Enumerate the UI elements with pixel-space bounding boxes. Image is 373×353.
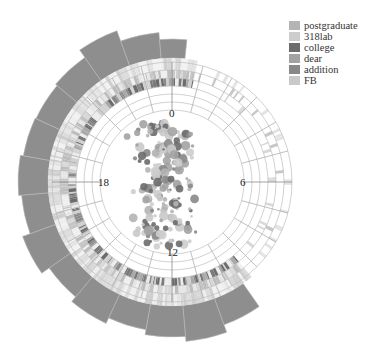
- tick-label-0: 0: [169, 107, 175, 119]
- band-tick: [167, 294, 170, 306]
- grid-spoke: [208, 78, 232, 120]
- scatter-point: [144, 159, 150, 165]
- band-tick: [275, 170, 283, 174]
- outer-bar-segment: [160, 39, 187, 59]
- scatter-point: [139, 120, 147, 128]
- legend-swatch: [289, 54, 300, 63]
- scatter-point: [153, 190, 161, 198]
- scatter-point: [185, 177, 188, 180]
- band-tick: [68, 178, 76, 182]
- band-tick: [173, 78, 175, 86]
- scatter-point: [144, 239, 151, 246]
- legend-label: postgraduate: [304, 20, 358, 31]
- legend-swatch: [289, 32, 300, 41]
- scatter-point: [188, 183, 193, 188]
- legend-item-dear: dear: [289, 53, 358, 64]
- scatter-point: [154, 243, 160, 249]
- scatter-point: [168, 227, 173, 232]
- legend-swatch: [289, 76, 300, 85]
- scatter-point: [152, 149, 160, 157]
- scatter-point: [163, 157, 171, 165]
- band-tick: [265, 202, 273, 206]
- scatter-point: [150, 202, 154, 206]
- scatter-point: [150, 209, 154, 213]
- legend-item-addition: addition: [289, 64, 358, 75]
- scatter-point: [184, 225, 193, 234]
- band-tick: [257, 225, 265, 230]
- scatter-point: [149, 189, 154, 194]
- legend-item-318lab: 318lab: [289, 31, 358, 42]
- scatter-point: [173, 201, 178, 206]
- band-tick: [60, 171, 68, 176]
- scatter-point: [140, 183, 147, 190]
- scatter-point: [170, 210, 174, 214]
- scatter-point: [173, 220, 178, 225]
- band-tick: [168, 278, 172, 286]
- scatter-point: [129, 213, 138, 222]
- legend-label: college: [304, 42, 334, 53]
- band-tick: [263, 148, 272, 153]
- scatter-point: [168, 239, 172, 243]
- scatter-point: [163, 197, 168, 202]
- scatter-point: [159, 242, 162, 245]
- scatter-point: [188, 207, 191, 210]
- band-tick: [270, 143, 278, 148]
- scatter-point: [185, 221, 190, 226]
- legend-swatch: [289, 21, 300, 30]
- band-tick: [233, 91, 239, 98]
- band-tick: [164, 286, 168, 294]
- scatter-point: [134, 130, 140, 136]
- band-tick: [168, 78, 172, 86]
- scatter-point: [162, 202, 165, 205]
- legend-item-college: college: [289, 42, 358, 53]
- band-tick: [60, 184, 68, 187]
- band-tick: [224, 95, 230, 103]
- outer-bar-segment: [18, 155, 50, 195]
- scatter-point: [146, 134, 150, 138]
- scatter-point: [149, 122, 153, 126]
- tick-label-12: 12: [167, 246, 178, 258]
- scatter-point: [178, 141, 181, 144]
- band-tick: [175, 78, 179, 86]
- scatter-point: [157, 208, 160, 211]
- band-tick: [284, 182, 292, 185]
- band-tick: [48, 178, 60, 181]
- scatter-point: [159, 219, 163, 223]
- scatter-point: [194, 230, 197, 233]
- scatter-point: [146, 214, 154, 222]
- band-tick: [238, 85, 244, 92]
- scatter-point: [156, 230, 163, 237]
- band-tick: [167, 70, 171, 78]
- scatter-point: [151, 222, 156, 227]
- tick-label-6: 6: [240, 176, 246, 188]
- scatter-point: [168, 127, 177, 136]
- band-tick: [164, 278, 168, 286]
- scatter-point: [133, 156, 137, 160]
- scatter-point: [191, 144, 195, 148]
- scatter-point: [153, 178, 162, 187]
- scatter-point: [168, 176, 175, 183]
- band-tick: [268, 177, 276, 180]
- band-tick: [211, 78, 216, 86]
- scatter-point: [188, 132, 193, 137]
- scatter-point: [138, 152, 147, 161]
- scatter-point: [141, 223, 144, 226]
- scatter-point: [172, 167, 176, 171]
- scatter-point: [176, 185, 184, 193]
- scatter-point: [188, 239, 192, 243]
- scatter-point: [151, 172, 156, 177]
- legend-swatch: [289, 43, 300, 52]
- band-tick: [178, 286, 182, 294]
- band-tick: [238, 95, 245, 102]
- legend-item-fb: FB: [289, 75, 358, 86]
- scatter-point: [174, 158, 183, 167]
- scatter-point: [177, 197, 180, 200]
- legend-swatch: [289, 65, 300, 74]
- legend-item-postgraduate: postgraduate: [289, 20, 358, 31]
- outer-bar-segment: [145, 304, 185, 337]
- band-tick: [167, 58, 171, 70]
- scatter-point: [190, 195, 199, 204]
- scatter-point: [186, 148, 194, 156]
- scatter-point: [155, 124, 159, 128]
- scatter-point: [166, 205, 169, 208]
